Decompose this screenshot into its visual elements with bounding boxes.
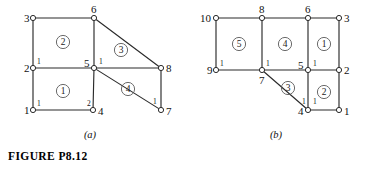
node-label-b-10: 10 xyxy=(200,12,212,24)
mesh-node-b-3 xyxy=(336,15,341,20)
element-number-b-1: 1 xyxy=(322,39,327,49)
mesh-node-b-5 xyxy=(305,67,310,72)
node-label-b-8: 8 xyxy=(259,3,265,15)
node-label-b-4: 4 xyxy=(298,105,304,117)
mesh-edge-a-n4-n5 xyxy=(93,71,94,108)
sub-caption-a: (a) xyxy=(78,129,102,140)
node-label-a-2: 2 xyxy=(24,62,30,74)
mesh-panel-a: 12341234567811121 xyxy=(24,3,172,117)
element-number-a-4: 4 xyxy=(126,84,131,94)
element-number-a-1: 1 xyxy=(61,86,66,96)
local-node-label-b-2: 1 xyxy=(313,59,317,68)
mesh-node-b-7 xyxy=(259,67,264,72)
figure-caption: FIGURE P8.12 xyxy=(8,150,88,162)
element-number-a-3: 3 xyxy=(119,45,124,55)
node-label-b-6: 6 xyxy=(305,3,311,15)
mesh-node-a-4 xyxy=(90,107,95,112)
mesh-node-a-3 xyxy=(30,15,35,20)
node-label-a-1: 1 xyxy=(24,104,30,116)
mesh-node-b-8 xyxy=(259,15,264,20)
mesh-node-a-2 xyxy=(30,65,35,70)
node-label-b-1: 1 xyxy=(344,105,350,117)
mesh-panel-b: 541321086397524111111 xyxy=(200,3,350,117)
mesh-node-b-9 xyxy=(213,67,218,72)
element-number-b-4: 4 xyxy=(283,39,288,49)
mesh-edge-a-n6-n8 xyxy=(96,20,159,67)
local-node-label-a-1: 1 xyxy=(37,57,41,66)
mesh-diagram-canvas: 12341234567811121 541321086397524111111 xyxy=(0,0,372,170)
node-label-b-3: 3 xyxy=(344,12,350,24)
node-label-a-8: 8 xyxy=(166,62,172,74)
mesh-node-b-4 xyxy=(305,107,310,112)
node-label-b-2: 2 xyxy=(344,64,350,76)
figure-container: 12341234567811121 541321086397524111111 … xyxy=(0,0,372,170)
mesh-node-b-2 xyxy=(336,67,341,72)
mesh-node-b-10 xyxy=(213,15,218,20)
mesh-node-a-1 xyxy=(30,107,35,112)
node-label-a-5: 5 xyxy=(84,57,90,69)
mesh-node-a-6 xyxy=(91,15,96,20)
node-label-b-5: 5 xyxy=(298,59,304,71)
mesh-node-a-5 xyxy=(91,65,96,70)
element-number-a-2: 2 xyxy=(61,37,66,47)
local-node-label-a-4: 1 xyxy=(153,97,157,106)
node-label-a-3: 3 xyxy=(24,12,30,24)
element-number-b-3: 3 xyxy=(286,83,291,93)
element-number-b-5: 5 xyxy=(237,39,242,49)
node-label-b-9: 9 xyxy=(207,64,213,76)
node-label-b-7: 7 xyxy=(259,74,265,86)
sub-caption-b: (b) xyxy=(264,129,288,140)
mesh-node-b-1 xyxy=(336,107,341,112)
local-node-label-b-0: 1 xyxy=(220,59,224,68)
local-node-label-b-3: 1 xyxy=(302,97,306,106)
mesh-node-a-7 xyxy=(158,107,163,112)
local-node-label-a-3: 2 xyxy=(87,99,91,108)
local-node-label-b-1: 1 xyxy=(266,59,270,68)
node-label-a-4: 4 xyxy=(98,105,104,117)
mesh-node-a-8 xyxy=(158,65,163,70)
local-node-label-a-2: 1 xyxy=(99,57,103,66)
local-node-label-b-4: 1 xyxy=(313,97,317,106)
local-node-label-a-0: 1 xyxy=(37,99,41,108)
element-number-b-2: 2 xyxy=(322,87,327,97)
node-label-a-7: 7 xyxy=(166,105,172,117)
mesh-node-b-6 xyxy=(305,15,310,20)
node-label-a-6: 6 xyxy=(91,3,97,15)
